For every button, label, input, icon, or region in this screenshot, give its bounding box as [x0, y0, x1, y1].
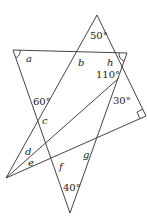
- angle-bottom-label: 40°: [63, 183, 81, 193]
- angle-f-label: f: [59, 162, 63, 172]
- angle-crossing-label: 110°: [96, 70, 120, 80]
- angle-e-label: e: [28, 158, 34, 168]
- geometry-diagram: 50° a b h 110° 60° 30° c d e f g 40°: [0, 0, 147, 216]
- angle-top-label: 50°: [90, 31, 108, 41]
- angle-right-label: 30°: [113, 96, 131, 106]
- angle-c-label: c: [42, 116, 48, 126]
- line-topleft-bottom: [13, 50, 70, 213]
- angle-left-label: 60°: [33, 97, 51, 107]
- arc-topright: [119, 53, 124, 61]
- angle-b-label: b: [78, 58, 84, 68]
- angle-d-label: d: [25, 147, 31, 157]
- angle-a-label: a: [26, 54, 32, 64]
- angle-g-label: g: [83, 150, 89, 160]
- angle-h-label: h: [107, 58, 113, 68]
- arc-a: [16, 50, 20, 58]
